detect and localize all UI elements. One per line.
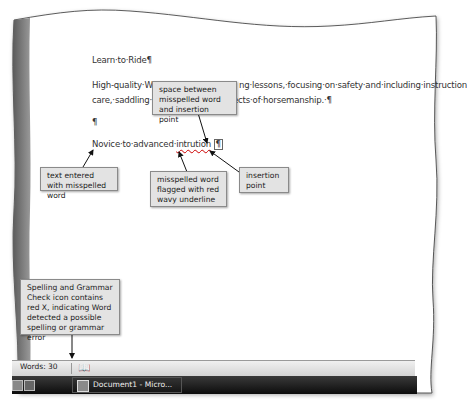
status-separator <box>71 363 72 374</box>
paragraph-line-2-start: care,·saddling·a <box>92 95 157 105</box>
callout-text-entered: text entered with misspelled word <box>40 167 118 191</box>
paragraph-line-2-end: ects·of·horsemanship.·¶ <box>233 95 332 105</box>
typed-line[interactable]: Novice·to·advanced·intrution ¶ <box>92 139 223 150</box>
word-document-icon <box>77 380 89 392</box>
taskbar-button-document1[interactable]: Document1 - Micro... <box>72 377 182 393</box>
empty-paragraph-mark: ¶ <box>92 117 97 127</box>
paragraph-line-1-start: High-quality·W <box>92 80 153 90</box>
word-count[interactable]: Words: 30 <box>20 362 58 371</box>
insertion-point: ¶ <box>214 139 223 150</box>
taskbar-button-label: Document1 - Micro... <box>93 380 172 389</box>
callout-spelling-icon: Spelling and Grammar Check icon contains… <box>20 279 120 335</box>
show-desktop-icon[interactable] <box>24 380 35 391</box>
status-bar: Words: 30 📖 <box>12 360 415 376</box>
quick-launch-icon[interactable] <box>12 380 23 391</box>
misspelled-word[interactable]: intrution <box>176 139 211 149</box>
taskbar: Document1 - Micro... <box>12 376 417 394</box>
callout-space-between: space between misspelled word and insert… <box>152 81 237 115</box>
typed-text: Novice·to·advanced· <box>92 139 176 149</box>
paragraph-line-1-end: ng·lessons,·focusing·on·safety·and·inclu… <box>239 80 467 90</box>
document-title-line: Learn·to·Ride¶ <box>92 55 152 65</box>
callout-misspelled-flagged: misspelled word flagged with red wavy un… <box>150 171 227 207</box>
spelling-grammar-check-icon[interactable]: 📖 <box>78 362 90 374</box>
callout-insertion-point: insertion point <box>239 167 289 193</box>
